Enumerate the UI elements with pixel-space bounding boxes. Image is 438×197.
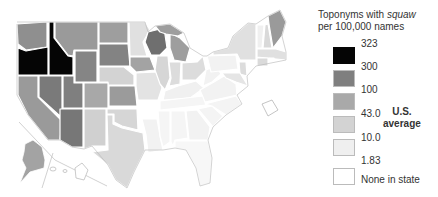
legend-tick-43: 43.0 (361, 108, 380, 119)
legend-tick-300: 300 (361, 61, 378, 72)
legend-tick-1.83: 1.83 (361, 155, 380, 166)
state-washington (17, 22, 47, 50)
state-michigan (170, 33, 190, 62)
legend-swatch-43-10 (333, 116, 355, 133)
state-indiana (169, 62, 181, 86)
state-new-mexico (84, 109, 106, 149)
state-alaska (20, 140, 45, 183)
legend-title-italic-term: squaw (387, 9, 416, 20)
legend-tick-100: 100 (361, 84, 378, 95)
legend-swatch-10-1.83 (333, 139, 355, 156)
state-oregon (18, 47, 48, 75)
legend-title-prefix: Toponyms with (318, 9, 387, 20)
legend-swatch-none (333, 168, 355, 185)
us-average-line1: U.S. (392, 106, 411, 117)
state-pennsylvania (207, 55, 238, 72)
legend-title: Toponyms with squaw per 100,000 names (318, 9, 416, 33)
state-rhode-island (269, 58, 274, 66)
us-choropleth-map (0, 0, 300, 197)
state-kansas (109, 86, 137, 106)
state-hawaii (50, 163, 88, 180)
legend-title-line2: per 100,000 names (318, 21, 404, 32)
legend-swatch-100-43 (333, 93, 355, 110)
us-average-line2: average (383, 118, 421, 129)
state-arizona (60, 109, 83, 147)
legend-swatch-323-300 (333, 47, 355, 64)
state-south-dakota (99, 44, 130, 66)
legend-tick-323: 323 (361, 38, 378, 49)
legend-swatch-300-100 (333, 70, 355, 87)
state-arkansas (138, 101, 158, 118)
state-north-dakota (99, 22, 128, 43)
inset-dc (262, 100, 278, 116)
state-nebraska (99, 67, 134, 85)
state-colorado (84, 83, 108, 108)
us-average-label: U.S. average (383, 106, 421, 130)
state-new-york (213, 23, 256, 60)
state-wyoming (75, 51, 97, 82)
legend-none-label: None in state (361, 174, 420, 185)
state-iowa (130, 57, 155, 72)
legend-tick-10: 10.0 (361, 132, 380, 143)
